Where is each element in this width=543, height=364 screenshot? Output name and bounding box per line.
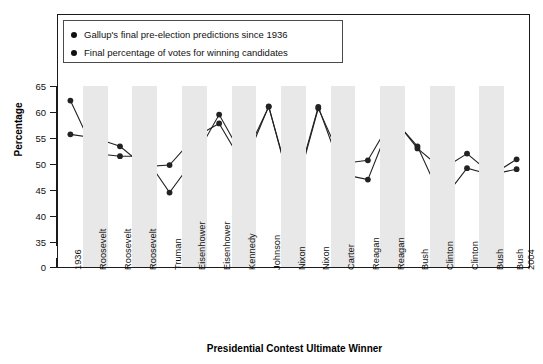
- y-axis-tick-label: 0: [41, 263, 46, 273]
- x-axis-tick-label: Bush2004: [515, 249, 536, 270]
- x-axis-tick-label: Clinton: [446, 241, 455, 270]
- x-axis-tick-label: Roosevelt: [149, 229, 158, 270]
- x-axis-labels: 1936RooseveltRooseveltRooseveltTrumanEis…: [58, 270, 529, 350]
- x-axis-tick-label: Eisenhower: [198, 221, 207, 270]
- chart-figure: Gallup's final pre-election predictions …: [0, 0, 543, 364]
- x-axis-tick-label: Bush: [421, 249, 430, 270]
- x-axis-tick-label: Kennedy: [248, 233, 257, 270]
- x-axis-tick-label: Johnson: [273, 235, 282, 270]
- background-stripe: [430, 86, 455, 267]
- round-dot-marker-icon: [71, 50, 77, 56]
- y-axis-tick-label: 55: [35, 134, 46, 144]
- x-axis-tick-label: Bush: [496, 249, 505, 270]
- x-axis-tick-label: Reagan: [397, 237, 406, 270]
- x-axis-tick-label: Nixon: [298, 246, 307, 270]
- legend-label-final-votes: Final percentage of votes for winning ca…: [84, 48, 288, 58]
- x-axis-tick-label: Clinton: [471, 241, 480, 270]
- x-axis-tick-label: Reagan: [372, 237, 381, 270]
- legend-item-predictions: Gallup's final pre-election predictions …: [71, 26, 335, 44]
- y-axis-tick-label: 65: [35, 82, 46, 92]
- x-axis-tick-label: Eisenhower: [223, 221, 232, 270]
- x-axis-tick-label: 1936: [74, 249, 83, 270]
- x-axis-title-wrap: Presidential Contest Ultimate Winner: [0, 343, 543, 354]
- x-axis-tick-label: Roosevelt: [124, 229, 133, 270]
- y-axis-title: Percentage: [13, 90, 24, 170]
- x-axis-tick-label: Carter: [347, 244, 356, 270]
- y-axis-tick-label: 60: [35, 108, 46, 118]
- x-axis-tick-label: Truman: [174, 238, 183, 270]
- y-axis-spine-lower: [56, 258, 57, 268]
- round-dot-marker-icon: [71, 32, 77, 38]
- y-axis-spine-upper: [56, 86, 57, 246]
- x-axis-tick-label: Nixon: [322, 246, 331, 270]
- y-axis-tick-label: 45: [35, 186, 46, 196]
- y-axis-tick-label: 50: [35, 160, 46, 170]
- x-axis-tick-label: Roosevelt: [99, 229, 108, 270]
- background-stripe: [331, 86, 356, 267]
- legend-label-predictions: Gallup's final pre-election predictions …: [84, 30, 288, 40]
- background-stripe: [479, 86, 504, 267]
- y-axis-tick-label: 35: [35, 238, 46, 248]
- background-stripe: [281, 86, 306, 267]
- chart-legend: Gallup's final pre-election predictions …: [63, 20, 343, 63]
- y-axis: Percentage 035404550556065: [0, 0, 57, 281]
- y-axis-tick-label: 40: [35, 212, 46, 222]
- legend-item-final-votes: Final percentage of votes for winning ca…: [71, 44, 335, 62]
- x-axis-title: Presidential Contest Ultimate Winner: [161, 343, 383, 354]
